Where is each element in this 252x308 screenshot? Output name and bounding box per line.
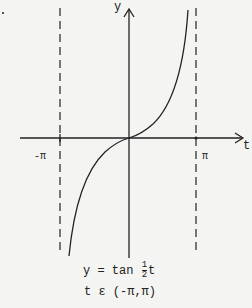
equation-left: y = tan (83, 264, 133, 278)
t-axis-label: t (243, 140, 250, 152)
one-half-fraction: 1 2 (142, 261, 147, 280)
neg-pi-label: -π (34, 151, 46, 163)
y-axis-label: y (114, 1, 121, 13)
pos-pi-label: π (202, 151, 208, 163)
equation-right: t (148, 264, 155, 278)
stray-mark (2, 12, 4, 14)
tick-pos-pi (194, 136, 197, 139)
fraction-denominator: 2 (142, 271, 147, 280)
domain-caption: t ε (-π,π) (84, 285, 156, 299)
equation-caption: y = tan 1 2 t (83, 261, 155, 280)
